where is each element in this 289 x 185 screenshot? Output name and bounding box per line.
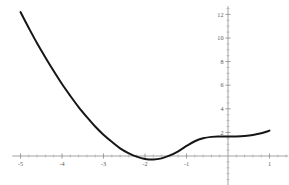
chart-figure: -5-4-3-2-11 24681012: [0, 0, 289, 185]
x-tick-label: -4: [59, 160, 64, 167]
x-tick-label: -3: [101, 160, 106, 167]
y-axis-tick-labels: 24681012: [217, 11, 223, 136]
data-curve: [21, 12, 270, 160]
y-tick-label: 8: [220, 58, 223, 65]
x-tick-label: -1: [184, 160, 189, 167]
y-tick-label: 12: [217, 11, 223, 18]
y-tick-label: 4: [220, 105, 223, 112]
plot-canvas: -5-4-3-2-11 24681012: [0, 0, 289, 185]
x-axis-tick-labels: -5-4-3-2-11: [18, 160, 271, 167]
y-tick-label: 6: [220, 81, 223, 88]
axes-group: [12, 6, 288, 185]
y-tick-label: 10: [217, 34, 223, 41]
x-tick-label: 1: [268, 160, 271, 167]
y-tick-label: 2: [220, 129, 223, 136]
x-tick-label: -2: [142, 160, 147, 167]
x-tick-label: -5: [18, 160, 23, 167]
